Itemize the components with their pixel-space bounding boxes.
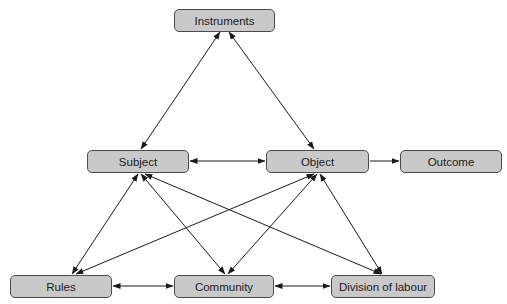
node-outcome: Outcome bbox=[400, 150, 502, 173]
node-label-rules: Rules bbox=[46, 281, 75, 293]
node-subject: Subject bbox=[87, 150, 189, 173]
edge-instruments-object bbox=[229, 32, 314, 149]
node-label-object: Object bbox=[301, 156, 334, 168]
edge-subject-division bbox=[145, 174, 381, 274]
node-label-community: Community bbox=[195, 281, 253, 293]
node-label-subject: Subject bbox=[119, 156, 157, 168]
node-division-of-labour: Division of labour bbox=[331, 275, 435, 298]
node-label-instruments: Instruments bbox=[194, 15, 254, 27]
edge-subject-rules bbox=[72, 174, 138, 274]
edge-object-rules bbox=[76, 174, 314, 274]
node-object: Object bbox=[266, 150, 369, 173]
node-instruments: Instruments bbox=[174, 9, 275, 32]
node-label-division-of-labour: Division of labour bbox=[339, 281, 427, 293]
node-rules: Rules bbox=[10, 275, 112, 298]
edge-instruments-subject bbox=[141, 32, 220, 149]
node-community: Community bbox=[174, 275, 274, 298]
node-label-outcome: Outcome bbox=[428, 156, 475, 168]
edge-object-community bbox=[228, 174, 317, 274]
edge-object-division bbox=[320, 174, 382, 274]
edge-subject-community bbox=[141, 174, 225, 274]
